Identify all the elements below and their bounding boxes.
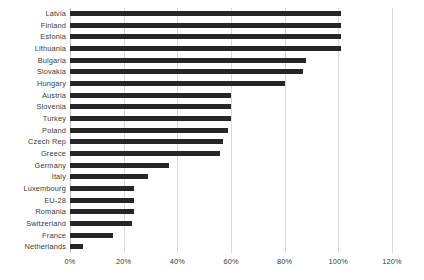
category-label: Turkey bbox=[0, 113, 66, 125]
bar bbox=[70, 198, 134, 203]
bar-row bbox=[70, 31, 392, 43]
bar bbox=[70, 174, 148, 179]
x-tick-label: 60% bbox=[223, 256, 238, 268]
category-label: Finland bbox=[0, 20, 66, 32]
category-label: Austria bbox=[0, 90, 66, 102]
bar bbox=[70, 128, 228, 133]
bar bbox=[70, 58, 306, 63]
bar-row bbox=[70, 218, 392, 230]
category-label: Slovenia bbox=[0, 101, 66, 113]
bar-row bbox=[70, 241, 392, 253]
category-label: Slovakia bbox=[0, 66, 66, 78]
bar-row bbox=[70, 101, 392, 113]
gridline-120pct bbox=[392, 8, 393, 253]
bar bbox=[70, 151, 220, 156]
x-tick-label: 100% bbox=[329, 256, 349, 268]
category-label: France bbox=[0, 230, 66, 242]
category-label: Germany bbox=[0, 160, 66, 172]
x-tick-label: 40% bbox=[170, 256, 185, 268]
category-label: EU-28 bbox=[0, 195, 66, 207]
category-label: Latvia bbox=[0, 8, 66, 20]
bar bbox=[70, 93, 231, 98]
bar bbox=[70, 244, 83, 249]
bar-chart: LatviaFinlandEstoniaLithuaniaBulgariaSlo… bbox=[0, 0, 424, 280]
bar-row bbox=[70, 206, 392, 218]
bar bbox=[70, 221, 132, 226]
category-label: Luxembourg bbox=[0, 183, 66, 195]
category-label: Poland bbox=[0, 125, 66, 137]
bar-row bbox=[70, 78, 392, 90]
bar bbox=[70, 34, 341, 39]
bar bbox=[70, 233, 113, 238]
bar-row bbox=[70, 148, 392, 160]
bar-row bbox=[70, 125, 392, 137]
category-label: Switzerland bbox=[0, 218, 66, 230]
bar bbox=[70, 163, 169, 168]
bar-row bbox=[70, 20, 392, 32]
x-tick-label: 0% bbox=[65, 256, 76, 268]
bar-row bbox=[70, 230, 392, 242]
bar-row bbox=[70, 66, 392, 78]
bar-row bbox=[70, 136, 392, 148]
bar bbox=[70, 46, 341, 51]
bar-row bbox=[70, 183, 392, 195]
category-axis-labels: LatviaFinlandEstoniaLithuaniaBulgariaSlo… bbox=[0, 8, 66, 253]
bar-row bbox=[70, 55, 392, 67]
bar-row bbox=[70, 90, 392, 102]
x-tick-label: 120% bbox=[382, 256, 402, 268]
value-axis-labels: 0%20%40%60%80%100%120% bbox=[70, 256, 392, 270]
bar bbox=[70, 104, 231, 109]
category-label: Bulgaria bbox=[0, 55, 66, 67]
category-label: Estonia bbox=[0, 31, 66, 43]
bar-row bbox=[70, 113, 392, 125]
bar bbox=[70, 69, 303, 74]
x-tick-label: 20% bbox=[116, 256, 131, 268]
bar-row bbox=[70, 171, 392, 183]
bar bbox=[70, 116, 231, 121]
plot-area bbox=[70, 8, 392, 253]
bar-row bbox=[70, 43, 392, 55]
x-tick-label: 80% bbox=[277, 256, 292, 268]
bar bbox=[70, 209, 134, 214]
category-label: Netherlands bbox=[0, 241, 66, 253]
bar-row bbox=[70, 160, 392, 172]
category-label: Czech Rep bbox=[0, 136, 66, 148]
bar-row bbox=[70, 8, 392, 20]
category-label: Greece bbox=[0, 148, 66, 160]
category-label: Italy bbox=[0, 171, 66, 183]
bar-row bbox=[70, 195, 392, 207]
bar bbox=[70, 186, 134, 191]
bar bbox=[70, 139, 223, 144]
bar bbox=[70, 23, 341, 28]
category-label: Romania bbox=[0, 206, 66, 218]
bar bbox=[70, 81, 285, 86]
bar-rows bbox=[70, 8, 392, 253]
category-label: Hungary bbox=[0, 78, 66, 90]
category-label: Lithuania bbox=[0, 43, 66, 55]
bar bbox=[70, 11, 341, 16]
